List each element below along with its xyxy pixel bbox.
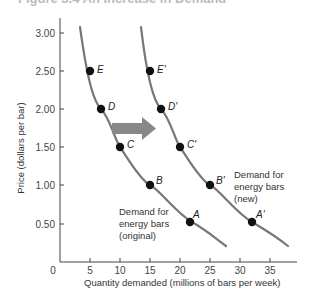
demand-chart: 3.00 2.50 2.00 1.50 1.00 0.50 0 5 10 15 … (0, 0, 310, 303)
axes (60, 18, 297, 262)
x-tick-30: 30 (234, 265, 246, 276)
svg-text:(original): (original) (119, 230, 156, 241)
label-B-prime: B' (216, 175, 226, 186)
label-C: C (127, 139, 135, 150)
point-B (146, 181, 154, 189)
curve-label-new: Demand for energy bars (new) (234, 169, 284, 204)
y-tick-labels: 3.00 2.50 2.00 1.50 1.00 0.50 0 (36, 28, 57, 276)
point-C (116, 143, 124, 151)
x-tick-labels: 5 10 15 20 25 30 35 (87, 265, 276, 276)
point-E-prime (146, 67, 154, 75)
label-B: B (156, 175, 163, 186)
y-tick-3.00: 3.00 (36, 28, 56, 39)
point-E (86, 67, 94, 75)
label-A: A (192, 209, 200, 220)
point-D-prime (157, 105, 165, 113)
svg-text:(new): (new) (234, 193, 258, 204)
label-E: E (97, 64, 104, 75)
curve-label-original: Demand for energy bars (original) (119, 206, 169, 241)
label-D: D (108, 101, 115, 112)
x-tick-10: 10 (114, 265, 126, 276)
y-tick-1.50: 1.50 (36, 142, 56, 153)
y-axis-title: Price (dollars per bar) (15, 102, 26, 193)
label-E-prime: E' (157, 64, 167, 75)
svg-text:energy bars: energy bars (119, 218, 169, 229)
x-tick-15: 15 (144, 265, 156, 276)
y-tick-1.00: 1.00 (36, 180, 56, 191)
svg-text:Demand for: Demand for (119, 206, 169, 217)
x-axis-title: Quantity demanded (millions of bars per … (84, 277, 280, 288)
x-tick-5: 5 (87, 265, 93, 276)
label-D-prime: D' (168, 101, 178, 112)
origin-label: 0 (50, 265, 56, 276)
x-tick-20: 20 (174, 265, 186, 276)
point-A-prime (248, 218, 256, 226)
point-B-prime (206, 181, 214, 189)
point-C-prime (176, 143, 184, 151)
x-tick-35: 35 (264, 265, 276, 276)
y-tick-2.50: 2.50 (36, 66, 56, 77)
point-D (97, 105, 105, 113)
shift-right-arrow-icon (112, 117, 156, 140)
x-tick-25: 25 (204, 265, 216, 276)
label-C-prime: C' (187, 139, 197, 150)
y-tick-0.50: 0.50 (36, 219, 56, 230)
label-A-prime: A' (255, 209, 266, 220)
svg-text:energy bars: energy bars (234, 181, 284, 192)
svg-text:Demand for: Demand for (234, 169, 284, 180)
y-tick-2.00: 2.00 (36, 104, 56, 115)
